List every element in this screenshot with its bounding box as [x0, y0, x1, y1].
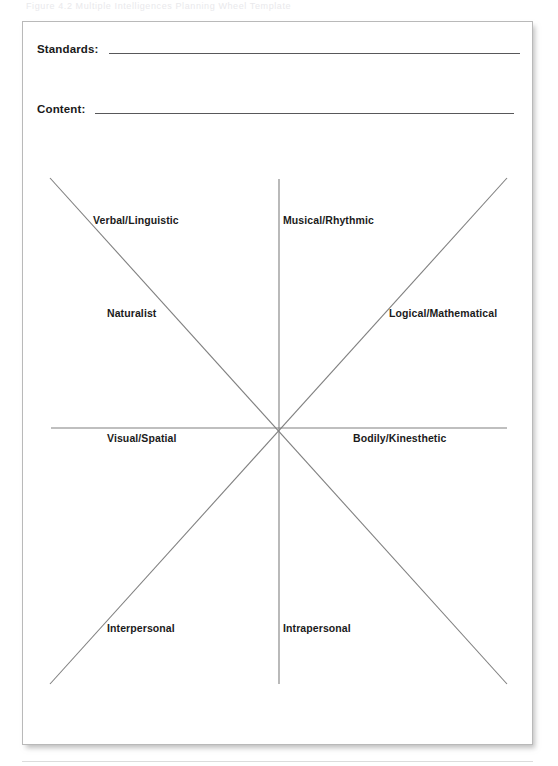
worksheet-card: Standards: Content: Verbal/Linguistic Mu… — [22, 21, 533, 745]
wheel-label-intrapersonal: Intrapersonal — [283, 622, 351, 635]
wheel-label-musical-rhythmic: Musical/Rhythmic — [283, 214, 374, 227]
wheel-label-visual-spatial: Visual/Spatial — [107, 432, 177, 445]
content-write-in-line[interactable] — [95, 113, 514, 114]
wheel-label-bodily-kinesthetic: Bodily/Kinesthetic — [353, 432, 446, 445]
wheel-axis-diagonal-ne-sw — [50, 178, 507, 684]
wheel-axis-diagonal-nw-se — [50, 178, 507, 684]
standards-field-row: Standards: — [37, 42, 520, 56]
standards-label: Standards: — [37, 42, 99, 56]
wheel-label-naturalist: Naturalist — [107, 307, 156, 320]
content-label: Content: — [37, 102, 85, 116]
wheel-label-verbal-linguistic: Verbal/Linguistic — [93, 214, 179, 227]
content-field-row: Content: — [37, 102, 520, 116]
standards-write-in-line[interactable] — [109, 53, 520, 54]
page-separator-rule — [22, 761, 533, 762]
multiple-intelligences-wheel — [23, 22, 534, 746]
wheel-label-logical-mathematical: Logical/Mathematical — [389, 307, 497, 320]
scan-header-text: Figure 4.2 Multiple Intelligences Planni… — [0, 0, 558, 12]
wheel-label-interpersonal: Interpersonal — [107, 622, 175, 635]
